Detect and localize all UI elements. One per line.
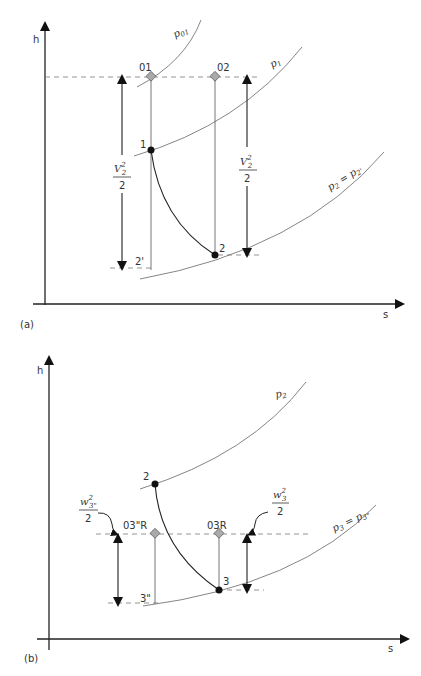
svg-text:w23: w23 <box>273 487 287 503</box>
point-03R-label: 03R <box>207 520 227 531</box>
point-3-marker <box>216 587 223 594</box>
svg-text:2: 2 <box>244 173 250 184</box>
point-03ppR-label: 03"R <box>123 520 147 531</box>
point-3-label: 3 <box>223 576 229 587</box>
svg-text:w23": w23" <box>80 494 97 510</box>
point-2-marker <box>212 252 219 259</box>
isobar-p3-label: p3 = p3" <box>330 507 371 536</box>
panel-a-tag: (a) <box>20 319 34 330</box>
s-axis-label: s <box>388 643 393 654</box>
point-02-label: 02 <box>217 62 230 73</box>
point-2-label: 2 <box>219 243 225 254</box>
h-axis-label: h <box>37 365 43 376</box>
hs-diagrams: h s (a) p01 p1 p2 = p2' 01 02 1 2 2' <box>0 0 421 676</box>
panel-a: h s (a) p01 p1 p2 = p2' 01 02 1 2 2' <box>20 20 400 330</box>
expansion-process-2-3 <box>155 484 219 590</box>
h-axis-label: h <box>33 34 39 45</box>
panel-b-tag: (b) <box>24 653 38 664</box>
relative-ke-label-right: w23 2 <box>272 487 289 517</box>
isobar-p2-label: p2 <box>274 387 288 402</box>
point-1-marker <box>148 147 155 154</box>
isobar-p1-label: p1 <box>268 55 284 72</box>
s-axis-label: s <box>383 309 388 320</box>
expansion-process-1-2 <box>151 150 215 255</box>
isobar-p01-label: p01 <box>171 23 190 41</box>
panel-b: h s (b) p2 p3 = p3" 2 3 3" 03"R 03R <box>24 360 405 664</box>
svg-text:V22: V22 <box>114 161 127 177</box>
point-2-label: 2 <box>143 471 149 482</box>
point-1-label: 1 <box>140 139 146 150</box>
point-01-label: 01 <box>139 62 152 73</box>
svg-text:V22: V22 <box>240 154 253 170</box>
callout-right <box>248 512 268 535</box>
relative-ke-label-left: w23" 2 <box>79 494 98 524</box>
svg-text:2: 2 <box>85 513 91 524</box>
kinetic-energy-label-left: V22 2 <box>113 161 131 191</box>
svg-text:2: 2 <box>277 506 283 517</box>
point-2prime-label: 2' <box>135 256 144 267</box>
callout-left <box>98 513 118 535</box>
svg-text:2: 2 <box>119 180 125 191</box>
point-03ppR-marker <box>150 528 160 538</box>
point-2-marker <box>152 481 159 488</box>
kinetic-energy-label-right: V22 2 <box>239 154 257 184</box>
point-3pp-label: 3" <box>140 593 151 604</box>
